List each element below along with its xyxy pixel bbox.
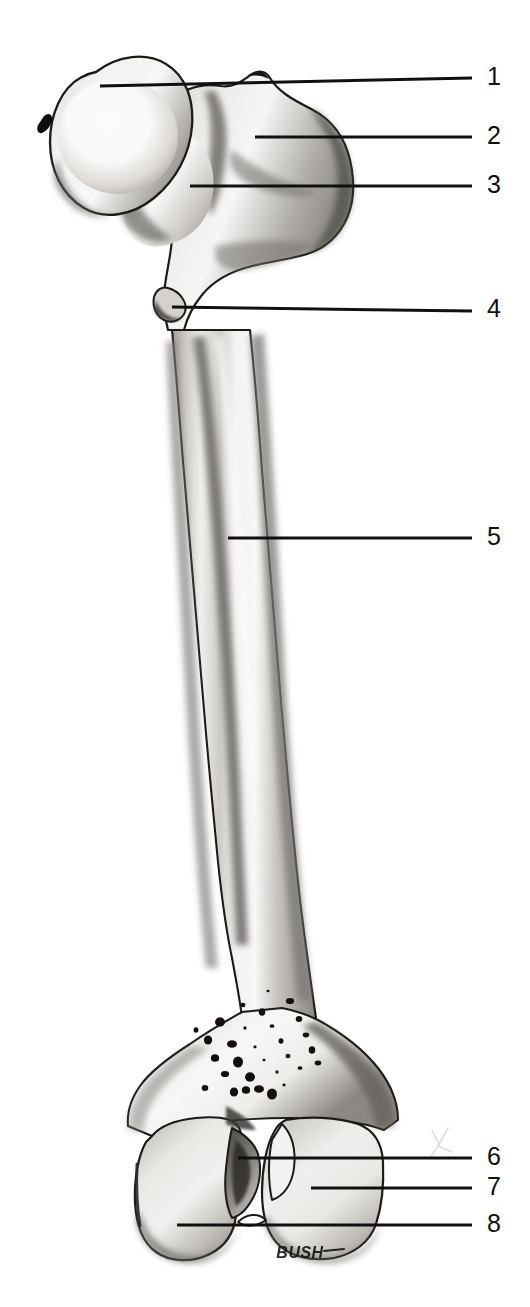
nutrient-foramen-dot [279,1038,284,1043]
signature-text: BUSH [276,1244,323,1261]
nutrient-foramen-dot [254,1085,264,1093]
nutrient-foramen-dot [298,1066,303,1070]
nutrient-foramen-dot [267,1088,277,1099]
nutrient-foramen-dot [204,1035,212,1044]
nutrient-foramen-dot [266,990,269,992]
nutrient-foramen-dot [282,1084,285,1087]
nutrient-foramen-dot [303,1033,310,1038]
nutrient-foramen-dot [221,1071,229,1077]
nutrient-foramen-dot [242,1086,250,1094]
nutrient-foramen-dot [253,1046,256,1049]
nutrient-foramen-dot [315,1061,322,1066]
pencil-scribble-mark [430,1128,452,1158]
nutrient-foramen-dot [270,1024,275,1028]
nutrient-foramen-dot [286,1054,291,1059]
callout-number-5[interactable]: 5 [487,524,501,549]
nutrient-foramen-dot [233,1056,243,1067]
nutrient-foramen-dot [230,1087,238,1096]
femoral-head-articular-dome [58,78,178,194]
callout-number-6[interactable]: 6 [487,1144,501,1169]
nutrient-foramen-dot [262,1059,265,1061]
callout-number-4[interactable]: 4 [487,296,501,321]
callout-number-8[interactable]: 8 [487,1211,501,1236]
femur-illustration-figure: BUSH 12345678 [0,0,530,1307]
bone-illustration-group: BUSH [37,57,452,1263]
callout-number-2[interactable]: 2 [487,123,501,148]
femur-drawing: BUSH [0,0,530,1307]
nutrient-foramen-dot [211,1054,219,1062]
nutrient-foramen-dot [309,1046,316,1053]
nutrient-foramen-dot [227,1040,237,1048]
nutrient-foramen-dot [296,1016,303,1022]
nutrient-foramen-dot [245,1072,255,1081]
nutrient-foramen-dot [259,1008,266,1015]
nutrient-foramen-dot [243,1026,246,1030]
leader-line-4 [172,307,472,311]
nutrient-foramen-dot [194,1027,199,1032]
nutrient-foramen-dot [241,1003,246,1008]
nutrient-foramen-dot [215,1017,225,1026]
nutrient-foramen-dot [202,1085,209,1091]
nutrient-foramen-dot [275,1070,278,1074]
callout-number-7[interactable]: 7 [487,1174,501,1199]
nutrient-foramen-dot [286,998,294,1004]
callout-number-3[interactable]: 3 [487,172,501,197]
callout-number-1[interactable]: 1 [487,64,501,89]
